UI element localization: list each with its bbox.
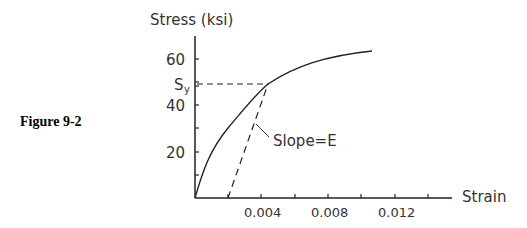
y-axis-title: Stress (ksi) bbox=[150, 11, 233, 29]
x-axis-title: Strain bbox=[462, 188, 506, 206]
x-tick-0012: 0.012 bbox=[378, 205, 415, 220]
slope-leader-line bbox=[256, 124, 269, 137]
stress-strain-curve bbox=[195, 51, 372, 198]
offset-dashed-line bbox=[228, 84, 268, 198]
x-tick-0004: 0.004 bbox=[244, 205, 281, 220]
slope-annotation: Slope=E bbox=[273, 132, 337, 150]
y-tick-20: 20 bbox=[166, 144, 185, 162]
y-tick-40: 40 bbox=[166, 97, 185, 115]
y-tick-60: 60 bbox=[166, 51, 185, 69]
sy-label: S bbox=[174, 76, 184, 94]
x-tick-0008: 0.008 bbox=[311, 205, 348, 220]
sy-subscript: y bbox=[184, 84, 190, 95]
stress-strain-chart: Stress (ksi) Strain 60 40 20 S y 0.004 0… bbox=[0, 0, 527, 228]
